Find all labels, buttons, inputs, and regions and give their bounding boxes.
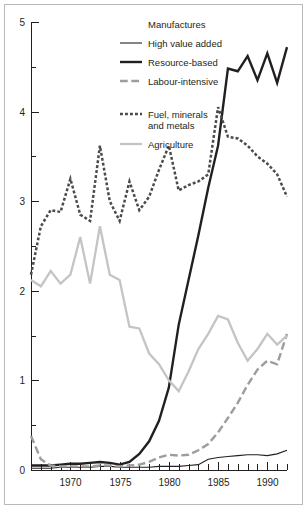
legend-item-label-line2: and metals [148,120,195,131]
y-tick-label: 2 [19,286,25,297]
y-tick-label: 4 [19,107,25,118]
chart-axes [31,22,287,471]
legend-item-label: High value added [148,38,222,49]
chart-legend: ManufacturesHigh value addedResource-bas… [120,19,222,150]
legend-item-label: Agriculture [148,139,193,150]
y-tick-label: 5 [19,17,25,28]
legend-item-labour-intensive[interactable]: Labour-intensive [120,76,218,87]
series-line-fuel-minerals-and-metals [31,107,287,275]
line-chart-svg: 01234519701975198019851990ManufacturesHi… [0,0,307,509]
y-tick-label: 1 [19,375,25,386]
y-tick-label: 0 [19,465,25,476]
legend-item-label: Resource-based [148,57,218,68]
legend-item-label: Labour-intensive [148,76,218,87]
legend-title: Manufactures [148,19,206,30]
y-tick-label: 3 [19,196,25,207]
legend-item-fuel-minerals[interactable]: Fuel, mineralsand metals [120,109,208,131]
chart-figure: 01234519701975198019851990ManufacturesHi… [0,0,307,509]
x-tick-label: 1985 [207,477,230,488]
x-tick-label: 1970 [59,477,82,488]
legend-item-high-value-added[interactable]: High value added [120,38,222,49]
x-tick-label: 1975 [109,477,132,488]
y-axis-ticks: 012345 [19,17,39,476]
legend-item-resource-based[interactable]: Resource-based [120,57,218,68]
series-line-labour-intensive [31,334,287,467]
legend-item-agriculture[interactable]: Agriculture [120,139,193,150]
x-tick-label: 1990 [256,477,279,488]
series-line-agriculture [31,226,287,391]
x-tick-label: 1980 [158,477,181,488]
legend-item-label: Fuel, minerals [148,109,208,120]
